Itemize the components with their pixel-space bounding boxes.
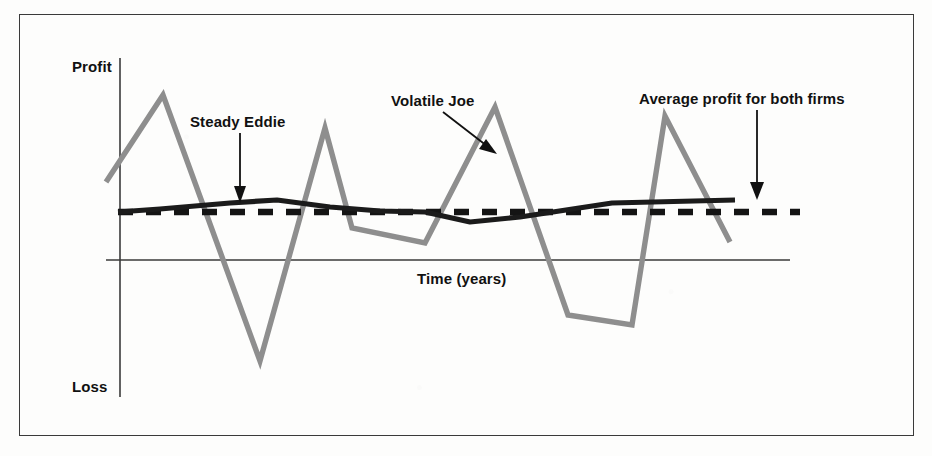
annotation-volatile-joe: Volatile Joe — [391, 92, 474, 109]
y-axis-label-profit: Profit — [72, 58, 112, 75]
annotation-steady-eddie: Steady Eddie — [190, 113, 285, 130]
annotation-average-profit: Average profit for both firms — [639, 90, 845, 107]
callout-arrow-average-profit — [750, 110, 764, 200]
y-axis-label-loss: Loss — [72, 378, 107, 395]
figure-page: Profit Loss Time (years) Steady Eddie Vo… — [0, 0, 932, 456]
line-chart-plot — [0, 0, 932, 456]
callout-arrow-steady-eddie — [234, 133, 246, 203]
series-line-volatile-joe — [106, 95, 730, 361]
x-axis-label-time: Time (years) — [417, 270, 506, 287]
